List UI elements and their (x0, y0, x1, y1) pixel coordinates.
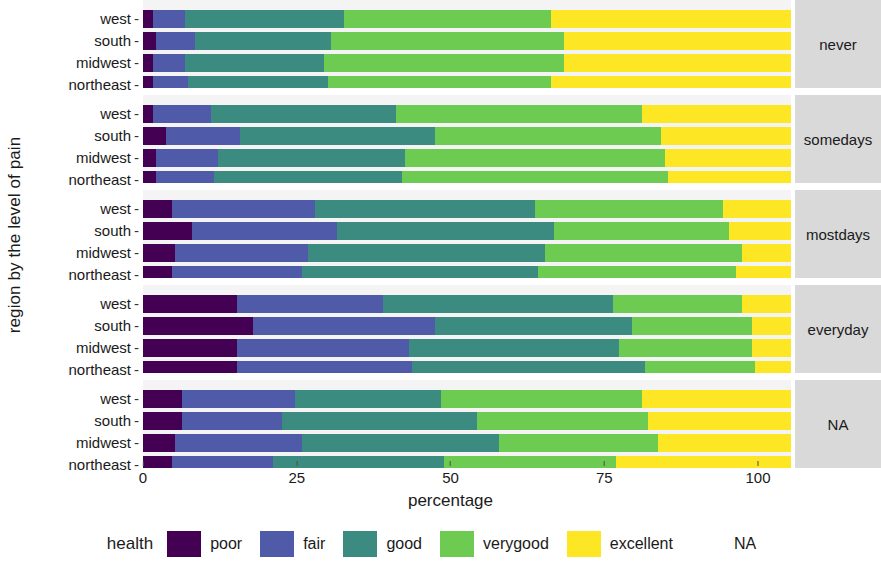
bar-segment-good (315, 200, 535, 218)
bar-segment-good (188, 76, 327, 88)
bar-segment-fair (192, 222, 338, 240)
x-axis-tick-label: 0 (139, 469, 147, 486)
legend-label: NA (734, 535, 756, 553)
bar-segment-poor (143, 390, 182, 408)
bar-segment-excellent (736, 266, 791, 278)
bar-segment-fair (153, 105, 211, 123)
legend-item[interactable]: verygood (440, 531, 549, 557)
y-axis-title: region by the level of pain (2, 0, 28, 470)
legend-title: health (107, 534, 153, 554)
x-axis-tick-label: 50 (442, 469, 459, 486)
bar-segment-excellent (729, 222, 791, 240)
legend: healthpoorfairgoodverygoodexcellentNA (0, 524, 881, 564)
bar-segment-good (302, 266, 539, 278)
bar-segment-excellent (564, 32, 791, 50)
legend-label: excellent (610, 535, 673, 553)
facet-row: westsouthmidwestnortheastNA (28, 380, 881, 468)
stacked-bar (143, 54, 791, 72)
facet-strip-label: mostdays (795, 190, 881, 278)
bar-segment-verygood (441, 390, 642, 408)
bar-segment-poor (143, 127, 166, 145)
bar-segment-poor (143, 244, 175, 262)
bar-segment-poor (143, 171, 156, 183)
bar-segment-verygood (435, 127, 662, 145)
y-axis-tick-labels: westsouthmidwestnortheast (28, 285, 143, 373)
bar-segment-verygood (402, 171, 668, 183)
y-axis-tick-label: midwest (76, 432, 139, 454)
stacked-bar (143, 127, 791, 145)
bar-segment-good (214, 171, 402, 183)
bar-segment-good (218, 149, 406, 167)
facet-panel (143, 0, 791, 88)
bar-segment-verygood (613, 295, 743, 313)
y-axis-tick-label: west (100, 198, 139, 220)
bar-segment-excellent (551, 76, 791, 88)
legend-item[interactable]: NA (691, 531, 756, 557)
bar-segment-verygood (619, 339, 752, 357)
bar-segment-excellent (648, 412, 791, 430)
x-axis-tick-label: 75 (596, 469, 613, 486)
x-axis-title: percentage (143, 491, 758, 511)
legend-label: fair (303, 535, 325, 553)
bar-segment-verygood (632, 317, 752, 335)
bar-segment-fair (237, 361, 412, 373)
bar-segment-excellent (551, 10, 791, 28)
bar-segment-fair (153, 54, 185, 72)
stacked-bar (143, 76, 791, 88)
bar-segment-good (302, 434, 500, 452)
bar-segment-poor (143, 105, 153, 123)
legend-item[interactable]: poor (167, 531, 242, 557)
stacked-bar (143, 222, 791, 240)
bar-segment-excellent (665, 149, 791, 167)
bar-segment-excellent (742, 295, 791, 313)
bar-segment-fair (156, 171, 214, 183)
facet-strip-label: NA (795, 380, 881, 468)
bar-segment-verygood (396, 105, 642, 123)
facet-row: westsouthmidwestnortheastnever (28, 0, 881, 88)
panel-grid: westsouthmidwestnortheastneverwestsouthm… (28, 0, 881, 460)
legend-swatch-fair (260, 531, 294, 557)
bar-segment-excellent (668, 171, 791, 183)
y-axis-tick-label: west (100, 8, 139, 30)
bar-segment-verygood (331, 32, 564, 50)
bar-segment-fair (182, 412, 282, 430)
bar-segment-excellent (658, 434, 791, 452)
bar-segment-poor (143, 295, 237, 313)
bar-segment-good (412, 361, 645, 373)
stacked-bar (143, 361, 791, 373)
facet-strip-label: somedays (795, 95, 881, 183)
y-axis-tick-label: northeast (68, 454, 139, 476)
bar-segment-verygood (405, 149, 664, 167)
legend-item[interactable]: fair (260, 531, 325, 557)
bar-segment-good (337, 222, 554, 240)
stacked-bar (143, 412, 791, 430)
bar-segment-verygood (499, 434, 658, 452)
facet-panel (143, 380, 791, 468)
bar-segment-verygood (645, 361, 755, 373)
bar-segment-fair (175, 244, 308, 262)
y-axis-tick-label: northeast (68, 359, 139, 381)
bar-segment-excellent (742, 244, 791, 262)
stacked-bar (143, 317, 791, 335)
stacked-bar (143, 105, 791, 123)
x-axis-tick: 0 (139, 461, 147, 486)
legend-item[interactable]: excellent (567, 531, 673, 557)
stacked-bar (143, 10, 791, 28)
facet-panel (143, 95, 791, 183)
bar-segment-poor (143, 149, 156, 167)
bar-segment-verygood (545, 244, 743, 262)
stacked-bar (143, 244, 791, 262)
y-axis-tick-label: west (100, 388, 139, 410)
bar-segment-fair (175, 434, 301, 452)
stacked-bar (143, 434, 791, 452)
x-axis-tick-mark (604, 461, 605, 466)
legend-item[interactable]: good (343, 531, 422, 557)
y-axis-tick-labels: westsouthmidwestnortheast (28, 190, 143, 278)
bar-segment-fair (156, 32, 195, 50)
bar-segment-fair (153, 10, 185, 28)
bar-segment-verygood (554, 222, 729, 240)
x-axis-tick: 100 (745, 461, 770, 486)
y-axis-tick-labels: westsouthmidwestnortheast (28, 380, 143, 468)
x-axis: 0255075100 (143, 461, 758, 495)
bar-segment-fair (172, 200, 315, 218)
